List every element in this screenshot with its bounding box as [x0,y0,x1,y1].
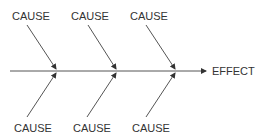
cause-label-bottom-3: CAUSE [132,122,170,134]
cause-label-bottom-2: CAUSE [73,122,111,134]
cause-label-top-3: CAUSE [130,10,168,22]
bone-top-3 [146,25,175,69]
cause-label-top-1: CAUSE [12,10,50,22]
cause-label-bottom-1: CAUSE [14,122,52,134]
bone-top-1 [27,25,56,69]
bone-bottom-3 [146,73,175,117]
effect-label: EFFECT [212,65,255,77]
bone-bottom-1 [27,73,56,117]
bone-bottom-2 [87,73,116,117]
cause-label-top-2: CAUSE [71,10,109,22]
bone-top-2 [88,25,116,69]
